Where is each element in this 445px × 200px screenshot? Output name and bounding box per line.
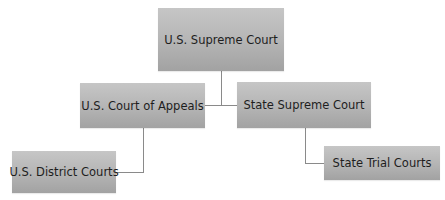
- connector-state-supreme-to-trial: [305, 163, 324, 164]
- node-label: State Supreme Court: [243, 98, 364, 112]
- node-label: U.S. Court of Appeals: [81, 99, 203, 113]
- court-hierarchy-diagram: U.S. Supreme Court U.S. Court of Appeals…: [0, 0, 445, 200]
- node-state-supreme-court: State Supreme Court: [237, 82, 371, 128]
- node-us-district-courts: U.S. District Courts: [12, 151, 116, 193]
- node-label: U.S. District Courts: [9, 165, 118, 179]
- connector-mid-horizontal: [205, 105, 237, 106]
- node-us-court-of-appeals: U.S. Court of Appeals: [80, 83, 205, 128]
- node-us-supreme-court: U.S. Supreme Court: [158, 8, 284, 71]
- node-label: State Trial Courts: [333, 156, 432, 170]
- connector-appeals-to-district: [116, 172, 144, 173]
- node-state-trial-courts: State Trial Courts: [324, 146, 440, 180]
- connector-supreme-down: [221, 71, 222, 106]
- connector-appeals-down: [143, 128, 144, 173]
- node-label: U.S. Supreme Court: [164, 33, 278, 47]
- connector-state-supreme-down: [305, 128, 306, 164]
